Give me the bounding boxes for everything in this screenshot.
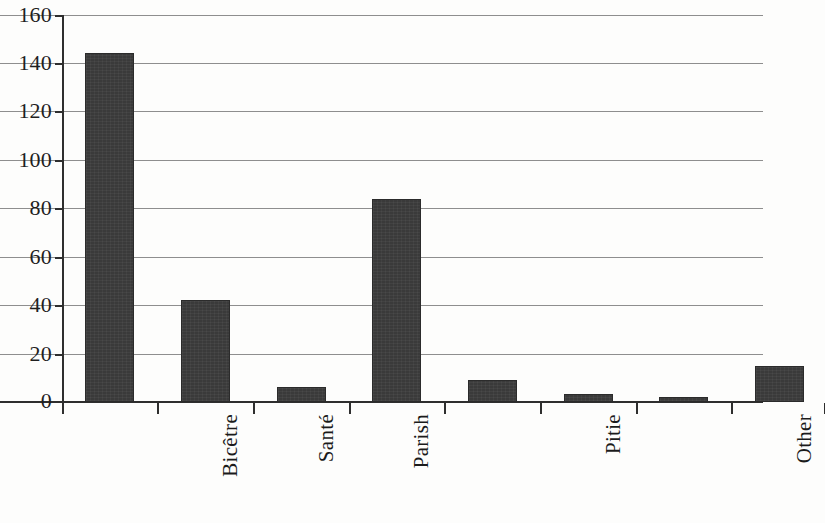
x-axis-label-sante: Santé xyxy=(316,414,337,462)
x-axis-label-other: Other xyxy=(794,414,815,463)
x-axis-label-parish: Parish xyxy=(411,414,432,468)
x-axis-labels: Hôtel Dieu Bicêtre Santé Parish Salpêtri… xyxy=(0,0,825,523)
x-axis-label-pitie: Pitie xyxy=(603,414,624,454)
bar-chart: 160 140 120 100 80 60 40 20 0 Hôtel Dieu… xyxy=(0,0,825,523)
x-axis-label-bicetre: Bicêtre xyxy=(220,414,241,477)
